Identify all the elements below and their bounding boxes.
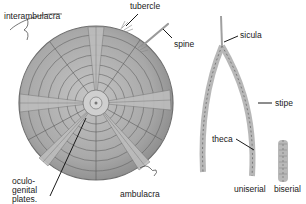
label-interambulacra: interambulacra xyxy=(4,12,60,21)
label-biserial: biserial xyxy=(274,185,301,194)
echinoid-test xyxy=(19,21,173,180)
label-sicula: sicula xyxy=(240,31,262,40)
label-tubercle: tubercle xyxy=(130,2,160,11)
label-uniserial: uniserial xyxy=(234,185,266,194)
graptolite-biserial xyxy=(278,140,288,182)
graptolite-leaders xyxy=(224,36,272,150)
label-ambulacra: ambulacra xyxy=(120,190,160,199)
label-theca: theca xyxy=(212,135,233,144)
label-spine: spine xyxy=(174,40,194,49)
label-stipe: stipe xyxy=(275,99,293,108)
label-oculogenital-3: plates. xyxy=(12,195,37,204)
